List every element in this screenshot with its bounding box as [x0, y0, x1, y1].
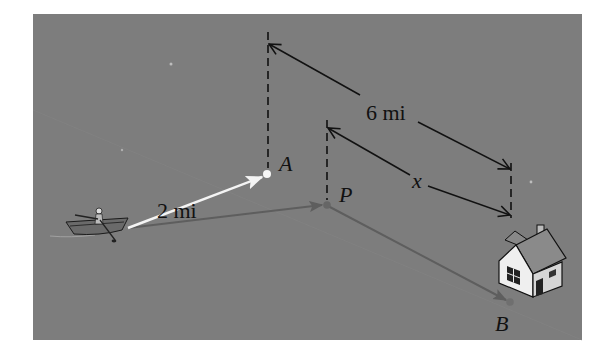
diagram-canvas — [0, 0, 605, 354]
label-6mi: 6 mi — [366, 102, 406, 124]
point-b — [506, 298, 514, 306]
label-point-b: B — [495, 313, 508, 335]
label-x: x — [412, 170, 422, 192]
label-point-a: A — [279, 153, 292, 175]
speckle — [530, 181, 533, 184]
point-p — [323, 201, 331, 209]
label-2mi: 2 mi — [157, 200, 197, 222]
label-point-p: P — [339, 184, 352, 206]
speckle — [121, 149, 123, 151]
speckle — [170, 63, 173, 66]
lake-panel — [33, 14, 582, 340]
rowboat-diagram: A P B 2 mi 6 mi x — [0, 0, 605, 354]
point-a — [263, 170, 271, 178]
